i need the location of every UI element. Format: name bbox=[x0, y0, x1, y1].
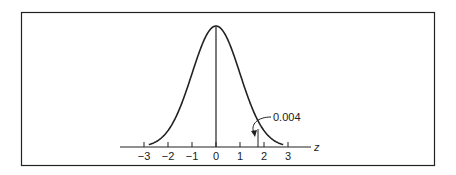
tick-label: 2 bbox=[261, 150, 267, 162]
normal-distribution-figure: z −3−2−10123 0.004 bbox=[0, 0, 456, 175]
arrow-head-icon bbox=[251, 130, 257, 137]
z-axis-ticks: −3−2−10123 bbox=[138, 142, 291, 162]
figure-frame bbox=[22, 13, 435, 166]
tick-label: 0 bbox=[213, 150, 219, 162]
tail-probability-label: 0.004 bbox=[273, 111, 301, 123]
tick-label: −1 bbox=[186, 150, 199, 162]
tick-label: −2 bbox=[162, 150, 175, 162]
tick-label: 1 bbox=[237, 150, 243, 162]
z-axis-label: z bbox=[313, 141, 320, 153]
tick-label: 3 bbox=[285, 150, 291, 162]
tick-label: −3 bbox=[138, 150, 151, 162]
